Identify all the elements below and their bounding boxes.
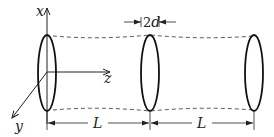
spacing-dimensions: L L <box>47 112 254 131</box>
lens-waveguide-diagram: x z y 2d L L <box>0 0 274 137</box>
lens-2 <box>141 35 159 111</box>
aperture-label: 2d <box>143 14 160 30</box>
beam-envelope <box>53 35 254 111</box>
z-axis-label: z <box>103 70 112 86</box>
spacing-label-1: L <box>92 115 102 131</box>
y-axis <box>12 72 47 118</box>
y-axis-label: y <box>14 118 24 134</box>
aperture-dimension: 2d <box>124 14 176 30</box>
x-axis-label: x <box>36 3 44 19</box>
lenses <box>38 35 263 111</box>
lens-3 <box>245 35 263 111</box>
spacing-label-2: L <box>196 115 206 131</box>
